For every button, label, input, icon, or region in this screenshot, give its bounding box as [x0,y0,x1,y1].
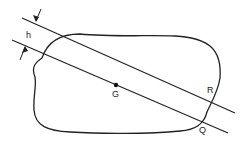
upper-line [22,18,235,113]
label-R: R [207,85,214,95]
diagram-canvas: h G R Q [0,0,248,141]
dimension-arrow-top-icon [33,9,41,22]
label-Q: Q [199,125,206,135]
dimension-arrow-bottom-icon [20,46,28,60]
label-h: h [26,30,31,40]
lower-line [12,40,228,133]
label-G: G [112,89,119,99]
body-outline [33,34,220,133]
centroid-point [114,83,118,87]
